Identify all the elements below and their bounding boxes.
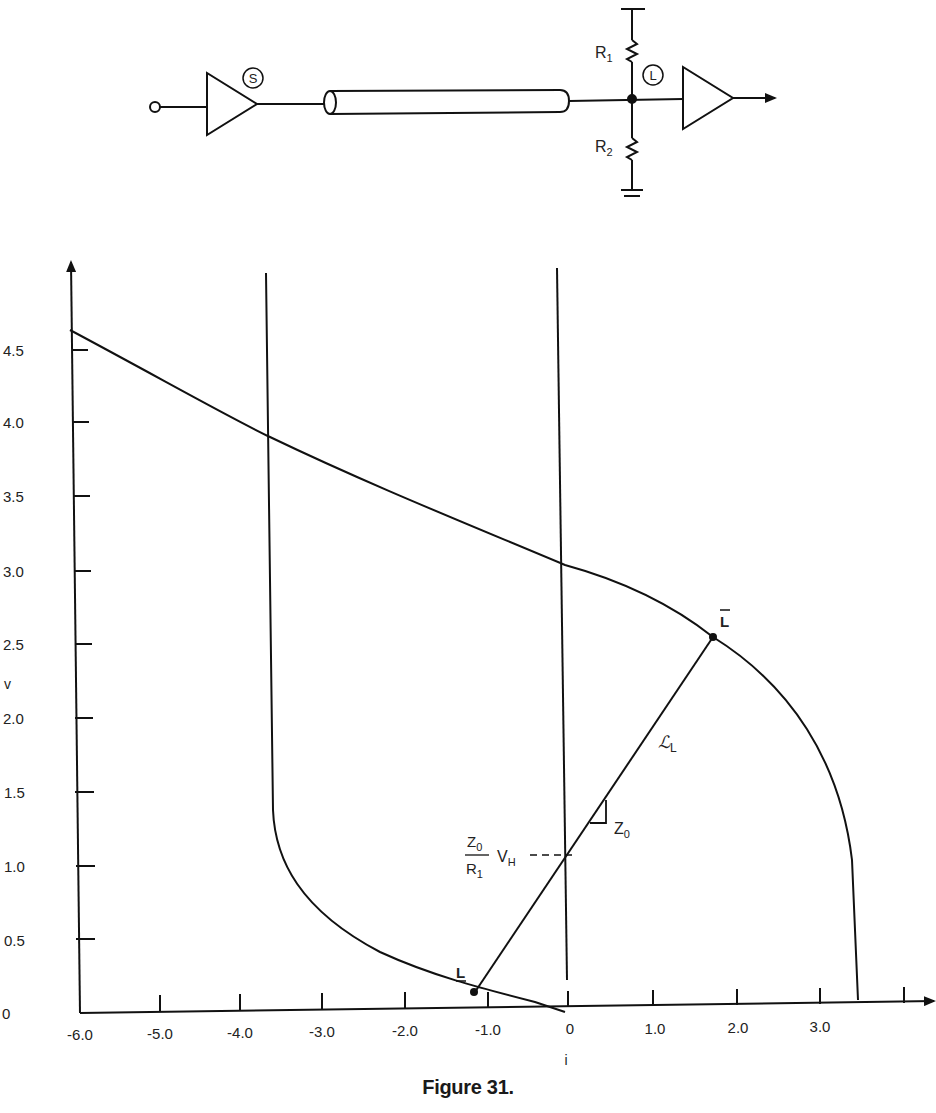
load-line — [475, 637, 713, 992]
load-node-label: L — [649, 68, 656, 83]
slope-triangle — [590, 800, 606, 823]
svg-text:-1.0: -1.0 — [475, 1021, 501, 1038]
svg-text:0: 0 — [2, 1005, 10, 1022]
svg-text:0.5: 0.5 — [4, 932, 25, 949]
svg-text:-3.0: -3.0 — [309, 1023, 335, 1040]
svg-text:2.0: 2.0 — [3, 710, 24, 727]
load-line-label: ℒL — [658, 733, 677, 755]
input-terminal-icon — [150, 102, 160, 112]
x-tick-labels: -6.0 -5.0 -4.0 -3.0 -2.0 -1.0 0 1.0 2.0 … — [67, 1018, 830, 1043]
x-axis — [80, 1001, 934, 1013]
driver-characteristic-curve — [70, 330, 858, 1000]
svg-text:1.0: 1.0 — [645, 1020, 666, 1037]
vertical-line-i0 — [557, 268, 567, 980]
resistor-r2-icon — [627, 138, 637, 160]
axes — [71, 262, 934, 1013]
y-axis — [71, 262, 80, 1013]
receiver-characteristic-curve — [266, 273, 565, 1012]
svg-text:VH: VH — [497, 848, 516, 868]
svg-text:-4.0: -4.0 — [227, 1024, 253, 1041]
chart: 0 0.5 1.0 1.5 2.0 2.5 3.0 3.5 4.0 4.5 v — [2, 262, 934, 1068]
x-axis-label: i — [564, 1052, 567, 1068]
svg-text:2.5: 2.5 — [3, 636, 24, 653]
y-axis-label: v — [4, 676, 11, 692]
resistor-r2-label: R2 — [595, 138, 613, 158]
slope-label: Z0 — [614, 820, 630, 840]
svg-text:Z0: Z0 — [467, 833, 482, 853]
svg-text:-2.0: -2.0 — [392, 1022, 418, 1039]
y-ticks — [72, 350, 95, 939]
ground-icon — [621, 190, 643, 196]
figure-canvas: S L R1 R2 0 0.5 1.0 1.5 2.0 2.5 — [0, 0, 936, 1113]
svg-text:-5.0: -5.0 — [147, 1025, 173, 1042]
svg-text:4.0: 4.0 — [3, 414, 24, 431]
resistor-r1-icon — [627, 40, 637, 62]
svg-text:4.5: 4.5 — [3, 342, 24, 359]
intercept-label: Z0 R1 VH — [465, 833, 516, 880]
x-ticks — [160, 987, 904, 1012]
svg-text:3.0: 3.0 — [3, 563, 24, 580]
transmission-line-icon — [324, 90, 569, 114]
svg-text:3.0: 3.0 — [810, 1018, 831, 1035]
svg-text:R1: R1 — [466, 860, 483, 880]
point-lower-L — [470, 988, 478, 996]
point-upper-label: L — [720, 613, 729, 630]
circuit-diagram — [150, 9, 775, 196]
svg-text:-6.0: -6.0 — [67, 1026, 93, 1043]
receiver-buffer-icon — [683, 67, 733, 129]
resistor-r1-label: R1 — [595, 44, 613, 64]
source-node-label: S — [249, 71, 258, 86]
svg-text:3.5: 3.5 — [3, 488, 24, 505]
svg-text:1.5: 1.5 — [4, 784, 25, 801]
point-lower-label: L — [456, 964, 465, 981]
figure-caption: Figure 31. — [0, 1076, 936, 1099]
svg-text:0: 0 — [566, 1020, 574, 1037]
svg-text:2.0: 2.0 — [728, 1019, 749, 1036]
svg-text:1.0: 1.0 — [4, 858, 25, 875]
curves — [70, 268, 858, 1012]
point-upper-L — [709, 633, 717, 641]
